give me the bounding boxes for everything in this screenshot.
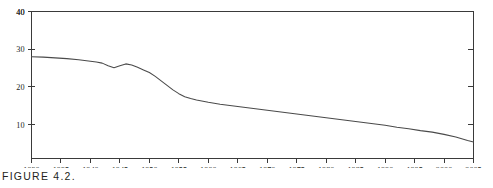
- chart-series-group: [32, 57, 474, 142]
- svg-text:40: 40: [16, 8, 24, 17]
- svg-text:30: 30: [16, 45, 24, 54]
- figure-container: 1020304040 19301935194019451950195519601…: [0, 0, 493, 188]
- line-chart: 1020304040 19301935194019451950195519601…: [0, 0, 493, 168]
- svg-text:1945: 1945: [112, 166, 128, 169]
- chart-tick-marks: [28, 12, 474, 163]
- svg-text:1995: 1995: [406, 166, 422, 169]
- svg-text:1940: 1940: [82, 166, 98, 169]
- x-axis-tick-labels: 1930193519401945195019551960196519701975…: [23, 166, 481, 169]
- svg-text:1965: 1965: [230, 166, 246, 169]
- svg-text:1955: 1955: [171, 166, 187, 169]
- figure-caption: FIGURE 4.2.: [2, 170, 76, 182]
- svg-text:1990: 1990: [377, 166, 393, 169]
- y-axis-tick-labels: 1020304040: [16, 8, 24, 130]
- data-line-rate: [32, 57, 474, 142]
- svg-text:2000: 2000: [436, 166, 452, 169]
- svg-text:1960: 1960: [200, 166, 216, 169]
- svg-text:10: 10: [16, 121, 24, 130]
- svg-text:1975: 1975: [289, 166, 305, 169]
- svg-text:20: 20: [16, 83, 24, 92]
- svg-text:1985: 1985: [347, 166, 363, 169]
- svg-text:1980: 1980: [318, 166, 334, 169]
- svg-text:1970: 1970: [259, 166, 275, 169]
- chart-axes: [32, 12, 474, 159]
- svg-text:1930: 1930: [23, 166, 39, 169]
- svg-text:2005: 2005: [465, 166, 481, 169]
- svg-text:1935: 1935: [53, 166, 69, 169]
- svg-text:1950: 1950: [141, 166, 157, 169]
